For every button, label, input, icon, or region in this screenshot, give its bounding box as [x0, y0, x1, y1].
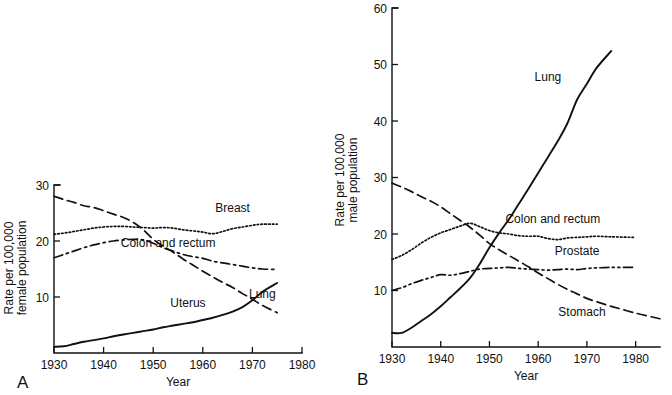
- series-label: Colon and rectum: [121, 236, 216, 250]
- x-tick-label: 1940: [427, 352, 454, 366]
- x-tick-label: 1970: [239, 358, 266, 372]
- y-axis-title-line: female population: [15, 221, 29, 316]
- series-label: Lung: [249, 287, 276, 301]
- y-tick-label: 60: [374, 2, 388, 16]
- y-tick-label: 40: [374, 115, 388, 129]
- panel-letter: A: [17, 373, 29, 392]
- cancer-mortality-figure: 102030193019401950196019701980YearRate p…: [0, 0, 672, 395]
- y-tick-label: 30: [374, 171, 388, 185]
- series-label: Prostate: [555, 244, 600, 258]
- y-tick-label: 20: [36, 235, 50, 249]
- series-label: Lung: [535, 70, 562, 84]
- x-tick-label: 1980: [289, 358, 316, 372]
- x-tick-label: 1950: [476, 352, 503, 366]
- x-tick-label: 1940: [90, 358, 117, 372]
- series-label: Uterus: [170, 296, 205, 310]
- series-label: Colon and rectum: [505, 212, 600, 226]
- x-tick-label: 1970: [574, 352, 601, 366]
- y-axis-title-line: male population: [346, 138, 360, 223]
- x-axis-title: Year: [514, 369, 538, 383]
- panel-letter: B: [357, 370, 368, 389]
- y-tick-label: 10: [36, 291, 50, 305]
- y-tick-label: 30: [36, 179, 50, 193]
- series-label: Breast: [215, 201, 250, 215]
- x-tick-label: 1980: [622, 352, 649, 366]
- x-tick-label: 1960: [189, 358, 216, 372]
- x-tick-label: 1960: [525, 352, 552, 366]
- y-axis-title-line: Rate per 100,000: [333, 133, 347, 226]
- y-axis-title: Rate per 100,000male population: [333, 133, 360, 226]
- x-tick-label: 1950: [140, 358, 167, 372]
- y-tick-label: 50: [374, 58, 388, 72]
- x-axis-title: Year: [166, 375, 190, 389]
- series-label: Stomach: [558, 305, 605, 319]
- y-tick-label: 10: [374, 284, 388, 298]
- figure-svg: 102030193019401950196019701980YearRate p…: [0, 0, 672, 395]
- x-tick-label: 1930: [379, 352, 406, 366]
- y-axis-title: Rate per 100,000female population: [2, 221, 29, 316]
- y-axis-title-line: Rate per 100,000: [2, 221, 16, 314]
- y-tick-label: 20: [374, 228, 388, 242]
- x-tick-label: 1930: [41, 358, 68, 372]
